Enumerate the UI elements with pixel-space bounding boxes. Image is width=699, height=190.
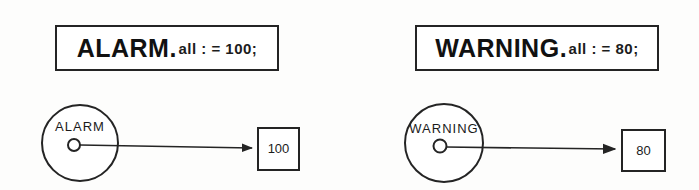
node-group-warning: WARNING [405,104,483,182]
output-port-icon-alarm[interactable] [68,139,80,151]
diagram-canvas: ALARM.all : = 100; WARNING.all : = 80; A… [0,0,699,190]
target-box-group-alarm: 100 [258,128,299,170]
node-group-alarm: ALARM [42,105,118,181]
target-value-warning: 80 [636,143,650,158]
target-value-alarm: 100 [268,141,290,156]
target-box-group-warning: 80 [622,130,665,171]
output-port-icon-warning[interactable] [434,140,447,153]
node-link-diagram: ALARM 100 WARNING 80 [0,0,699,190]
node-label-alarm: ALARM [55,119,105,134]
node-label-warning: WARNING [409,121,478,136]
